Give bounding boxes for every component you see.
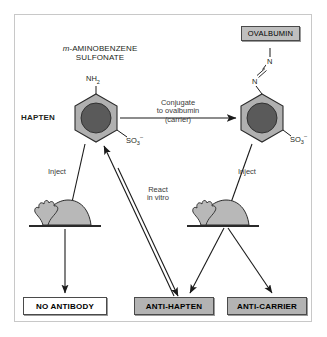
react-in-vitro-arrow [104,146,174,296]
hapten-label: HAPTEN [21,114,55,123]
outcome-box-no-antibody: NO ANTIBODY [23,297,107,315]
inject-label-right: Inject [238,168,256,176]
hapten-ring-right [241,94,283,142]
mouse-right [187,200,259,226]
molecule-title-line2: SULFONATE [76,53,124,62]
ovalbumin-box: OVALBUMIN [241,26,300,41]
azo-nitrogen-top: N [266,57,273,66]
amine-group-label: NH2 [86,75,100,85]
outcome-label: NO ANTIBODY [36,302,94,311]
right-mouse-to-anti-carrier-arrow [228,228,272,293]
right-mouse-to-anti-hapten-arrow [190,228,224,293]
inject-label-left: Inject [48,168,66,176]
outcome-box-anti-hapten: ANTI-HAPTEN [134,297,214,315]
ovalbumin-label: OVALBUMIN [248,29,293,38]
sulfonate-group-label-left: SO3– [126,134,143,146]
hapten-carrier-diagram: m-AMINOBENZENE SULFONATE HAPTEN NH2 SO3–… [0,0,327,337]
outcome-label: ANTI-HAPTEN [146,302,202,311]
molecule-title: m-AMINOBENZENE SULFONATE [50,45,150,63]
molecule-title-line1-rest: -AMINOBENZENE [69,44,137,53]
outcome-box-anti-carrier: ANTI-CARRIER [227,297,307,315]
conjugate-arrow-label: Conjugate to ovalbumin (carrier) [137,99,219,124]
azo-nitrogen-bottom: N [251,77,258,86]
sulfonate-group-label-right: SO3– [290,133,307,145]
mouse-left [29,200,101,226]
outcome-label: ANTI-CARRIER [237,302,297,311]
react-in-vitro-label: React in vitro [135,186,181,203]
hapten-ring-left [75,94,117,142]
